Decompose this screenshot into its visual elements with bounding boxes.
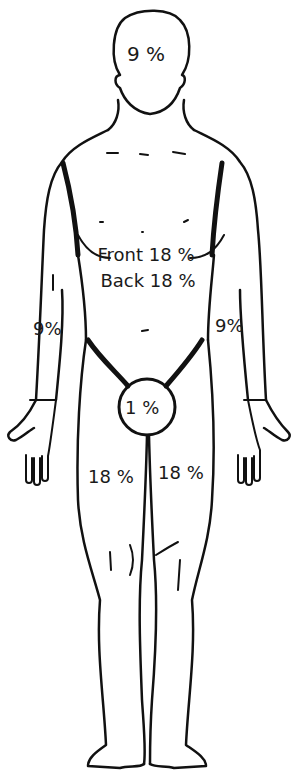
shoulders-outline — [36, 130, 108, 400]
neck-outline — [108, 100, 119, 130]
right-arm-percentage: 9% — [33, 319, 62, 339]
head-percentage: 9 % — [127, 44, 165, 64]
left-arm-percentage: 9% — [215, 316, 244, 336]
torso-back-percentage: Back 18 % — [92, 271, 204, 291]
torso-front-percentage: Front 18 % — [90, 245, 202, 265]
left-leg-percentage: 18 % — [158, 463, 204, 483]
perineum-percentage: 1 % — [125, 398, 159, 418]
body-outline — [0, 0, 301, 778]
right-leg-percentage: 18 % — [88, 467, 134, 487]
